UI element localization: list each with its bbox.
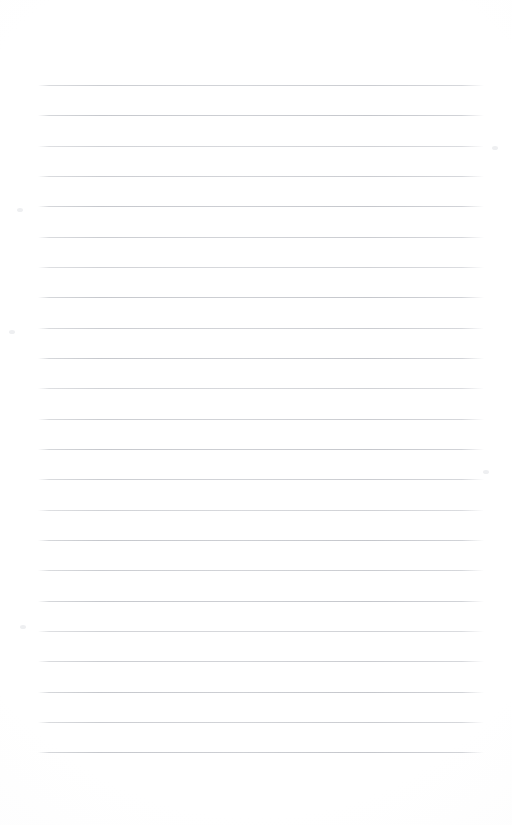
scan-speck xyxy=(9,330,15,334)
rule-line xyxy=(38,601,484,602)
rule-line xyxy=(38,449,484,450)
rule-line xyxy=(38,752,484,753)
scan-speck xyxy=(483,470,489,474)
rule-line xyxy=(38,146,484,147)
scanned-page xyxy=(0,0,512,825)
rule-line xyxy=(38,570,484,571)
rule-line xyxy=(38,176,484,177)
rule-line xyxy=(38,722,484,723)
rule-line xyxy=(38,510,484,511)
rule-line xyxy=(38,358,484,359)
rule-line xyxy=(38,692,484,693)
rule-line xyxy=(38,206,484,207)
rule-line xyxy=(38,388,484,389)
rule-line xyxy=(38,85,484,86)
rule-line xyxy=(38,661,484,662)
scan-speck xyxy=(492,146,498,150)
scan-speck xyxy=(20,625,26,629)
rule-line xyxy=(38,297,484,298)
rule-line xyxy=(38,540,484,541)
rule-line xyxy=(38,267,484,268)
rule-line xyxy=(38,631,484,632)
ruled-lines-area xyxy=(0,0,512,825)
scan-speck xyxy=(17,208,23,212)
rule-line xyxy=(38,328,484,329)
rule-line xyxy=(38,479,484,480)
rule-line xyxy=(38,237,484,238)
rule-line xyxy=(38,115,484,116)
rule-line xyxy=(38,419,484,420)
